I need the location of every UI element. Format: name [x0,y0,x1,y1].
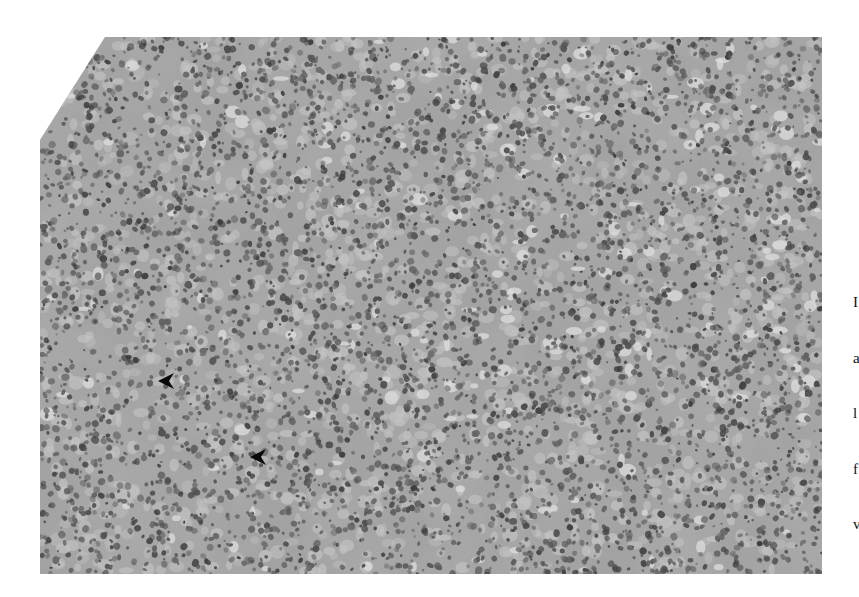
tissue-region [0,0,859,597]
cropped-caption-text: I a l f v [853,256,859,571]
caption-fragment: I [853,293,859,312]
caption-fragment: v [853,515,859,534]
caption-fragment: a [853,349,859,368]
tissue-micrograph [0,0,859,597]
caption-fragment: l [853,404,859,423]
caption-fragment: f [853,460,859,479]
figure-canvas: I a l f v [0,0,859,597]
